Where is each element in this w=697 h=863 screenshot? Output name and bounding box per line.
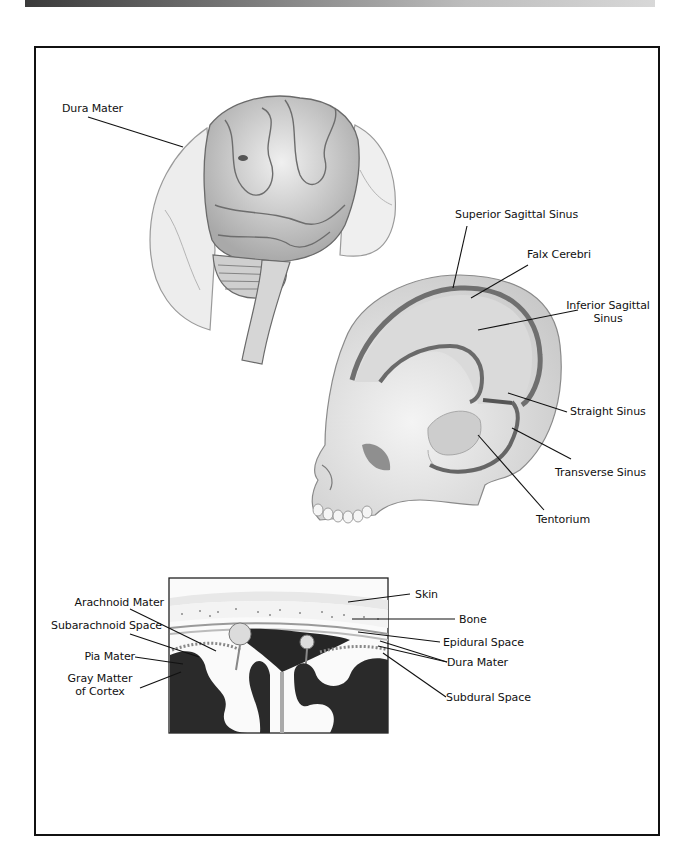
- label-gray-matter-line2: of Cortex: [60, 685, 140, 698]
- label-arachnoid-mater: Arachnoid Mater: [40, 596, 164, 609]
- label-bone: Bone: [459, 613, 487, 626]
- label-tentorium: Tentorium: [536, 513, 590, 526]
- label-epidural-space: Epidural Space: [443, 636, 524, 649]
- label-dura-mater-bottom: Dura Mater: [447, 656, 508, 669]
- skull-illustration: [312, 275, 561, 523]
- label-superior-sagittal-sinus: Superior Sagittal Sinus: [455, 208, 578, 221]
- label-skin: Skin: [415, 588, 438, 601]
- anatomy-illustration: [0, 0, 697, 863]
- label-dura-mater-top: Dura Mater: [62, 102, 123, 115]
- label-gray-matter-of-cortex: Gray Matter of Cortex: [60, 672, 140, 698]
- label-inferior-sagittal-sinus-line2: Sinus: [560, 312, 656, 325]
- label-transverse-sinus: Transverse Sinus: [555, 466, 646, 479]
- label-inferior-sagittal-sinus: Inferior Sagittal Sinus: [560, 299, 656, 325]
- label-subdural-space: Subdural Space: [446, 691, 531, 704]
- label-straight-sinus: Straight Sinus: [570, 405, 646, 418]
- label-subarachnoid-space: Subarachnoid Space: [25, 619, 162, 632]
- label-pia-mater: Pia Mater: [40, 650, 135, 663]
- label-gray-matter-line1: Gray Matter: [60, 672, 140, 685]
- label-inferior-sagittal-sinus-line1: Inferior Sagittal: [560, 299, 656, 312]
- label-falx-cerebri: Falx Cerebri: [527, 248, 591, 261]
